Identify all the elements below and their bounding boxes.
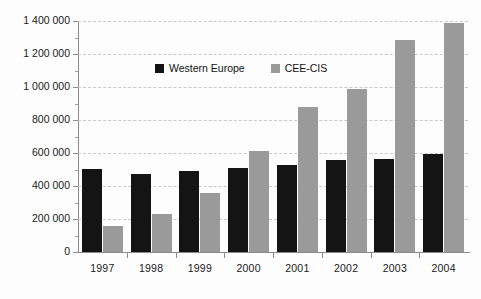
bar-western-europe (131, 174, 151, 252)
y-axis-minor-tick (75, 137, 78, 138)
x-axis-separator-tick (322, 252, 323, 258)
y-axis-tick (73, 186, 78, 187)
x-axis-separator-tick (273, 252, 274, 258)
bar-western-europe (374, 159, 394, 252)
y-axis-tick-label: 600 000 (0, 146, 70, 158)
y-axis-tick-label: 1 000 000 (0, 80, 70, 92)
x-axis-line (78, 252, 470, 253)
legend-label-cee-cis: CEE-CIS (285, 62, 328, 74)
x-axis-tick-label: 2004 (414, 262, 474, 274)
y-axis-tick (73, 21, 78, 22)
y-axis-tick-label: 0 (0, 245, 70, 257)
legend-swatch-icon-cee-cis (271, 64, 280, 73)
bar-cee-cis (152, 214, 172, 252)
bar-western-europe (326, 160, 346, 252)
bar-group (372, 21, 417, 252)
y-axis-tick-label: 200 000 (0, 212, 70, 224)
bar-cee-cis (444, 23, 464, 252)
y-axis-minor-tick (75, 71, 78, 72)
x-axis-separator-tick (176, 252, 177, 258)
bar-cee-cis (395, 40, 415, 252)
y-axis-tick (73, 153, 78, 154)
y-axis-tick-label: 1 200 000 (0, 47, 70, 59)
y-axis-tick-label: 400 000 (0, 179, 70, 191)
legend-label-western-europe: Western Europe (169, 62, 245, 74)
legend-item-western-europe: Western Europe (155, 62, 245, 74)
bar-group (324, 21, 369, 252)
bar-group (177, 21, 222, 252)
y-axis-tick (73, 252, 78, 253)
x-axis-separator-tick (419, 252, 420, 258)
bar-group (421, 21, 466, 252)
bar-cee-cis (249, 151, 269, 252)
x-axis-separator-tick (224, 252, 225, 258)
legend-item-cee-cis: CEE-CIS (271, 62, 328, 74)
y-axis-minor-tick (75, 203, 78, 204)
y-axis-tick (73, 219, 78, 220)
y-axis-tick (73, 120, 78, 121)
bar-cee-cis (347, 89, 367, 252)
y-axis-tick (73, 54, 78, 55)
bar-western-europe (423, 154, 443, 252)
bar-western-europe (277, 165, 297, 252)
bar-group (275, 21, 320, 252)
y-axis-minor-tick (75, 38, 78, 39)
bar-western-europe (228, 168, 248, 252)
y-axis-minor-tick (75, 236, 78, 237)
bar-group (80, 21, 125, 252)
bar-cee-cis (200, 193, 220, 252)
y-axis-tick-label: 800 000 (0, 113, 70, 125)
bar-group (129, 21, 174, 252)
bar-group (226, 21, 271, 252)
y-axis-minor-tick (75, 170, 78, 171)
bar-chart-figure: 0200 000400 000600 000800 0001 000 0001 … (0, 0, 481, 299)
chart-legend: Western Europe CEE-CIS (155, 62, 327, 74)
legend-swatch-icon-western-europe (155, 64, 164, 73)
x-axis-separator-tick (127, 252, 128, 258)
x-axis-separator-tick (371, 252, 372, 258)
bar-cee-cis (298, 107, 318, 252)
y-axis-minor-tick (75, 104, 78, 105)
bar-western-europe (82, 169, 102, 252)
y-axis-tick-label: 1 400 000 (0, 14, 70, 26)
y-axis-tick (73, 87, 78, 88)
bar-cee-cis (103, 226, 123, 252)
bar-western-europe (179, 171, 199, 252)
